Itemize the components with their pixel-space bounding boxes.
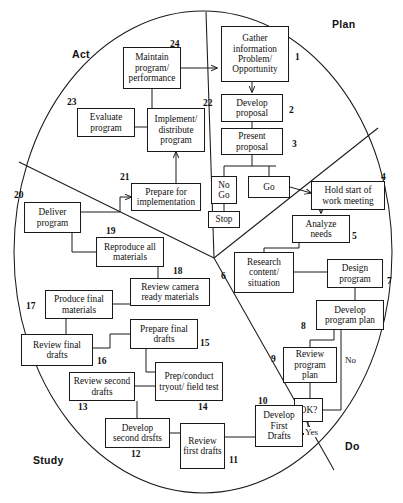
node-n2[interactable]: Develop proposal xyxy=(221,94,283,122)
node-number-7: 7 xyxy=(387,276,392,286)
node-number-17: 17 xyxy=(26,301,36,311)
node-number-24: 24 xyxy=(170,39,180,49)
node-label: Design program xyxy=(330,263,380,284)
quadrant-label-act: Act xyxy=(72,48,90,60)
node-number-19: 19 xyxy=(106,226,116,236)
node-label: Implement/ distribute program xyxy=(150,114,202,145)
node-number-1: 1 xyxy=(295,52,300,62)
node-no-go[interactable]: No Go xyxy=(211,176,237,204)
quadrant-label-do: Do xyxy=(345,440,360,452)
node-number-14: 14 xyxy=(198,402,208,412)
node-label: Evaluate program xyxy=(80,112,132,133)
node-label: Review program plan xyxy=(286,349,334,380)
node-label: Analyze needs xyxy=(295,219,347,240)
node-label: Maintain program/ performance xyxy=(126,52,178,83)
node-label: Go xyxy=(263,182,274,192)
node-label: Prepare for implementation xyxy=(134,187,198,208)
node-number-21: 21 xyxy=(120,172,130,182)
node-number-13: 13 xyxy=(78,402,88,412)
node-label: Deliver program xyxy=(27,207,78,228)
node-label: Review second drafts xyxy=(72,376,132,397)
node-number-5: 5 xyxy=(352,231,357,241)
node-number-11: 11 xyxy=(229,455,238,465)
node-number-10: 10 xyxy=(258,396,268,406)
node-go[interactable]: Go xyxy=(248,176,290,198)
node-n15[interactable]: Prepare final drafts xyxy=(130,319,198,349)
node-n14[interactable]: Prep/conduct tryout/ field test xyxy=(155,362,223,401)
node-number-2: 2 xyxy=(289,105,294,115)
node-n16[interactable]: Review final drafts xyxy=(21,334,93,366)
node-label: Hold start of work meeting xyxy=(314,185,382,206)
node-number-15: 15 xyxy=(200,338,210,348)
node-number-18: 18 xyxy=(173,266,183,276)
node-n12[interactable]: Develop second drsfts xyxy=(105,418,170,448)
node-n3[interactable]: Present proposal xyxy=(221,128,283,155)
node-label: Develop proposal xyxy=(224,98,280,119)
node-n13[interactable]: Review second drafts xyxy=(69,372,135,401)
node-n19[interactable]: Reproduce all materials xyxy=(96,237,164,267)
node-n24[interactable]: Maintain program/ performance xyxy=(123,47,181,89)
node-label: Develop second drsfts xyxy=(108,423,167,444)
quadrant-label-plan: Plan xyxy=(332,18,355,30)
node-n20[interactable]: Deliver program xyxy=(24,202,81,233)
node-label: Develop program plan xyxy=(319,305,381,326)
edge-label-no: No xyxy=(344,355,357,365)
node-label: Develop First Drafts xyxy=(258,410,300,441)
node-n17[interactable]: Produce final materials xyxy=(45,290,113,319)
node-label: Prepare final drafts xyxy=(133,324,195,345)
node-label: Review camera ready materials xyxy=(133,282,207,303)
node-label: Research content/ situation xyxy=(237,257,291,288)
node-label: Review first drafts xyxy=(183,436,222,457)
node-label: Reproduce all materials xyxy=(99,242,161,263)
node-number-23: 23 xyxy=(67,97,77,107)
node-number-9: 9 xyxy=(271,354,276,364)
node-number-12: 12 xyxy=(131,449,141,459)
node-n7[interactable]: Design program xyxy=(327,259,383,288)
node-label: Review final drafts xyxy=(24,340,90,361)
node-n6[interactable]: Research content/ situation xyxy=(234,252,294,293)
node-number-3: 3 xyxy=(292,139,297,149)
node-label: Prep/conduct tryout/ field test xyxy=(158,371,220,392)
node-n18[interactable]: Review camera ready materials xyxy=(130,278,210,306)
node-n10[interactable]: Develop First Drafts xyxy=(255,405,303,447)
node-n8[interactable]: Develop program plan xyxy=(316,300,384,330)
node-n21[interactable]: Prepare for implementation xyxy=(131,183,201,211)
node-label: Present proposal xyxy=(224,131,280,152)
node-number-22: 22 xyxy=(203,98,213,108)
node-label: Produce final materials xyxy=(48,294,110,315)
node-stop[interactable]: Stop xyxy=(208,211,240,228)
node-label: Stop xyxy=(215,214,232,224)
pdca-diagram: Gather information Problem/ Opportunity … xyxy=(0,0,403,503)
node-label: No Go xyxy=(214,180,234,201)
node-n23[interactable]: Evaluate program xyxy=(77,108,135,137)
node-number-8: 8 xyxy=(301,321,306,331)
node-n5[interactable]: Analyze needs xyxy=(292,215,350,243)
node-number-16: 16 xyxy=(97,356,107,366)
node-n11[interactable]: Review first drafts xyxy=(180,423,225,469)
node-n1[interactable]: Gather information Problem/ Opportunity xyxy=(221,26,289,82)
node-n22[interactable]: Implement/ distribute program xyxy=(147,108,205,152)
edge-label-yes: Yes xyxy=(304,427,319,437)
node-label: Gather information Problem/ Opportunity xyxy=(224,33,286,75)
node-number-6: 6 xyxy=(221,271,226,281)
quadrant-label-study: Study xyxy=(33,454,64,466)
node-n9[interactable]: Review program plan xyxy=(283,347,337,383)
node-n4[interactable]: Hold start of work meeting xyxy=(311,181,385,210)
node-number-20: 20 xyxy=(14,190,24,200)
node-number-4: 4 xyxy=(381,172,386,182)
